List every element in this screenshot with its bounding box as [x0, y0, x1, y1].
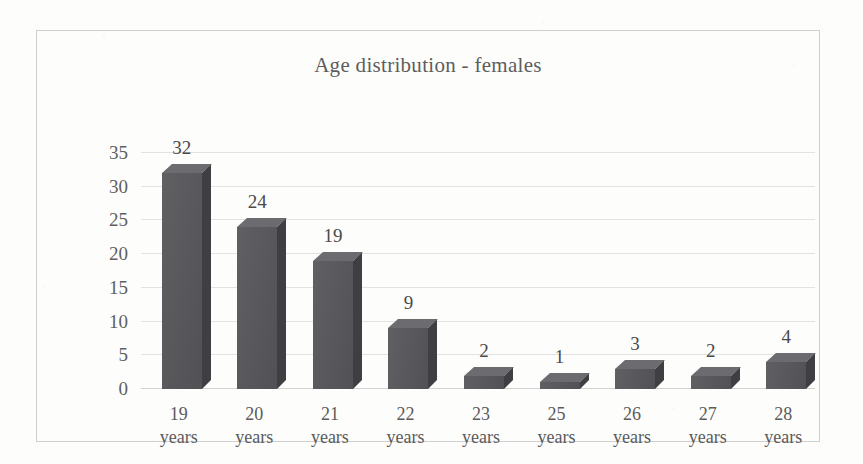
- x-axis-label: 22years: [368, 403, 444, 448]
- x-axis-label-unit: years: [519, 426, 595, 449]
- x-axis-label-number: 19: [141, 403, 217, 426]
- x-axis-label: 19years: [141, 403, 217, 448]
- y-axis-tick-label: 30: [109, 176, 128, 198]
- bar-value-label: 2: [691, 340, 731, 362]
- y-axis-tick-label: 35: [109, 142, 128, 164]
- plot-area: 05101520253035 322419921324: [141, 153, 821, 389]
- bar-value-label: 24: [237, 191, 277, 213]
- chart-frame: Age distribution - females 0510152025303…: [36, 30, 820, 442]
- x-axis-label-number: 26: [594, 403, 670, 426]
- x-axis-label-unit: years: [368, 426, 444, 449]
- gridline: [141, 219, 815, 220]
- x-axis-label-unit: years: [443, 426, 519, 449]
- x-axis-label: 27years: [670, 403, 746, 448]
- x-axis-label: 21years: [292, 403, 368, 448]
- gridline: [141, 186, 815, 187]
- y-axis-tick-label: 0: [119, 378, 129, 400]
- x-axis-label: 28years: [745, 403, 821, 448]
- bar-front-face: [237, 227, 277, 389]
- bar-value-label: 19: [313, 225, 353, 247]
- bar-value-label: 1: [540, 346, 580, 368]
- bar: 32: [162, 173, 202, 389]
- chart-title: Age distribution - females: [37, 53, 819, 78]
- x-axis-label-unit: years: [745, 426, 821, 449]
- x-axis-label-unit: years: [217, 426, 293, 449]
- bar: 4: [766, 362, 806, 389]
- bar-side-face: [428, 319, 437, 389]
- x-axis-label-number: 20: [217, 403, 293, 426]
- x-axis-label-number: 23: [443, 403, 519, 426]
- x-axis-label-number: 28: [745, 403, 821, 426]
- x-axis-labels: 19years20years21years22years23years25yea…: [141, 403, 821, 463]
- bar-value-label: 2: [464, 340, 504, 362]
- x-axis-label: 25years: [519, 403, 595, 448]
- bar: 1: [540, 382, 580, 389]
- bar-value-label: 32: [162, 137, 202, 159]
- y-axis-tick-label: 10: [109, 311, 128, 333]
- bar-front-face: [766, 362, 806, 389]
- bar-side-face: [353, 252, 362, 389]
- bar-front-face: [388, 328, 428, 389]
- x-axis-label: 23years: [443, 403, 519, 448]
- bar-value-label: 3: [615, 333, 655, 355]
- bar-front-face: [615, 369, 655, 389]
- x-axis-label: 26years: [594, 403, 670, 448]
- x-axis-label-number: 22: [368, 403, 444, 426]
- bar: 19: [313, 261, 353, 389]
- bar-value-label: 4: [766, 326, 806, 348]
- bar-value-label: 9: [388, 292, 428, 314]
- x-axis-label-number: 25: [519, 403, 595, 426]
- x-axis-label-unit: years: [594, 426, 670, 449]
- bar: 2: [691, 376, 731, 389]
- bar-front-face: [464, 376, 504, 389]
- bar-front-face: [162, 173, 202, 389]
- bar: 24: [237, 227, 277, 389]
- x-axis-label-number: 27: [670, 403, 746, 426]
- bar-side-face: [277, 218, 286, 389]
- x-axis-label-number: 21: [292, 403, 368, 426]
- bar-front-face: [691, 376, 731, 389]
- y-axis-tick-label: 15: [109, 277, 128, 299]
- bar: 3: [615, 369, 655, 389]
- x-axis-label: 20years: [217, 403, 293, 448]
- x-axis-label-unit: years: [670, 426, 746, 449]
- gridline: [141, 152, 815, 153]
- y-axis-tick-label: 5: [119, 344, 129, 366]
- bar-front-face: [540, 382, 580, 389]
- x-axis-label-unit: years: [292, 426, 368, 449]
- y-axis-tick-label: 20: [109, 243, 128, 265]
- bar-side-face: [202, 164, 211, 389]
- x-axis-label-unit: years: [141, 426, 217, 449]
- bar: 9: [388, 328, 428, 389]
- y-axis-tick-label: 25: [109, 209, 128, 231]
- bar: 2: [464, 376, 504, 389]
- bar-front-face: [313, 261, 353, 389]
